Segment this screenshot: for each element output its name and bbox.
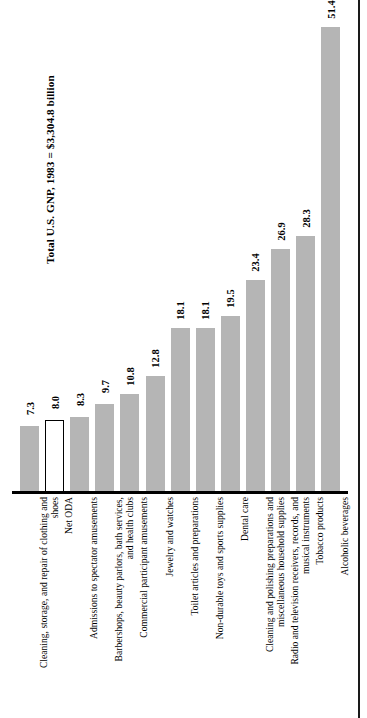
bar-value-label: 18.1 [175, 302, 186, 320]
bar [296, 236, 315, 492]
bar-value-label: 8.3 [74, 393, 85, 406]
bar-value-label: 9.7 [99, 380, 110, 393]
category-label: Non-durable toys and sports supplies [215, 497, 226, 639]
bar-group: 8.3 [70, 0, 89, 492]
bar-group: 7.3 [20, 0, 39, 492]
bar [246, 280, 265, 492]
bar [45, 420, 64, 492]
bar-group: 18.1 [196, 0, 215, 492]
bar-group: 8.0 [45, 0, 64, 492]
bar-value-label: 26.9 [275, 222, 286, 240]
bar-value-label: 23.4 [250, 254, 261, 272]
bar-value-label: 10.8 [124, 368, 135, 386]
bar-group: 19.5 [221, 0, 240, 492]
bar [271, 249, 290, 492]
bar-group: 23.4 [246, 0, 265, 492]
bar-group: 18.1 [171, 0, 190, 492]
bar-group: 9.7 [95, 0, 114, 492]
category-label: Jewelry and watches [165, 497, 176, 576]
bar-value-label: 19.5 [225, 289, 236, 307]
category-label: Dental care [240, 497, 251, 541]
category-label: Tobacco products [315, 497, 326, 565]
bar [171, 328, 190, 492]
bar-chart: Total U.S. GNP, 1983 = $3,304.8 billion … [0, 0, 367, 718]
bar-group: 10.8 [120, 0, 139, 492]
bar-group: 12.8 [146, 0, 165, 492]
bar-value-label: 8.0 [49, 396, 60, 409]
category-label: Commercial participant amusements [139, 497, 150, 638]
bar [146, 376, 165, 492]
category-label: Admissions to spectator amusements [89, 497, 100, 639]
category-label: Toilet articles and preparations [190, 497, 201, 615]
category-label: Alcoholic beverages [340, 497, 351, 576]
bar [70, 417, 89, 492]
category-label: Radio and television receivers, records,… [290, 497, 311, 665]
bar [20, 426, 39, 492]
bar [321, 27, 340, 492]
bar-group: 51.4 [321, 0, 340, 492]
bar-group: 26.9 [271, 0, 290, 492]
category-label: Barbershops, beauty parlors, bath servic… [114, 497, 135, 661]
category-label: Net ODA [64, 497, 75, 534]
bar-value-label: 18.1 [200, 302, 211, 320]
category-axis-line [12, 491, 348, 494]
bar [196, 328, 215, 492]
bar-value-label: 28.3 [300, 209, 311, 227]
bar-value-label: 7.3 [24, 402, 35, 415]
bar-value-label: 51.4 [325, 0, 336, 18]
category-axis-labels: Cleaning, storage, and repair of clothin… [0, 497, 367, 718]
bar [221, 316, 240, 492]
bar [120, 394, 139, 492]
bar-value-label: 12.8 [150, 350, 161, 368]
category-label: Cleaning, storage, and repair of clothin… [39, 497, 60, 668]
bar [95, 404, 114, 492]
bar-group: 28.3 [296, 0, 315, 492]
category-label: Cleaning and polishing preparations and … [265, 497, 286, 652]
plot-area: 7.38.08.39.710.812.818.118.119.523.426.9… [0, 0, 367, 492]
